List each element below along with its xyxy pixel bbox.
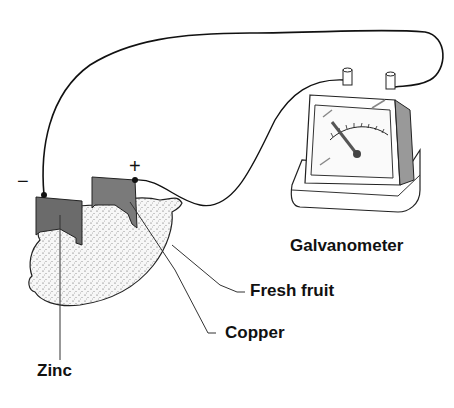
label-fresh-fruit: Fresh fruit xyxy=(250,281,334,301)
negative-sign: − xyxy=(17,170,29,193)
label-galvanometer: Galvanometer xyxy=(290,236,403,256)
label-copper: Copper xyxy=(225,323,285,343)
positive-sign: + xyxy=(129,155,141,178)
label-zinc: Zinc xyxy=(37,361,72,381)
fruit-battery-diagram xyxy=(0,0,454,408)
galvanometer xyxy=(291,68,420,212)
